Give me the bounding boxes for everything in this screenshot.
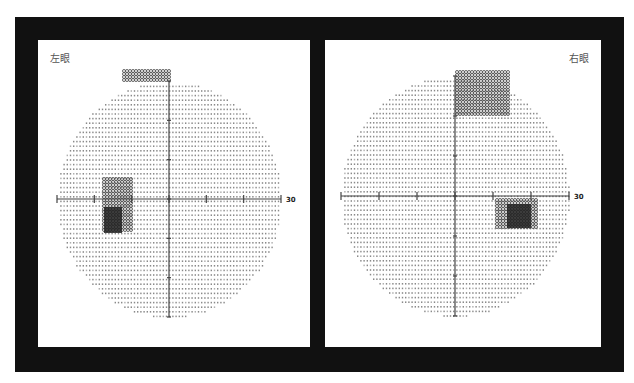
- svg-text:30: 30: [286, 196, 296, 204]
- left-eye-visual-field-chart: 30: [38, 40, 310, 347]
- right-eye-visual-field-chart: 30: [325, 40, 601, 347]
- defect-cluster: [123, 70, 171, 82]
- left-eye-panel: 左眼 30: [38, 40, 310, 347]
- svg-text:30: 30: [574, 193, 584, 201]
- right-eye-panel: 右眼 30: [325, 40, 601, 347]
